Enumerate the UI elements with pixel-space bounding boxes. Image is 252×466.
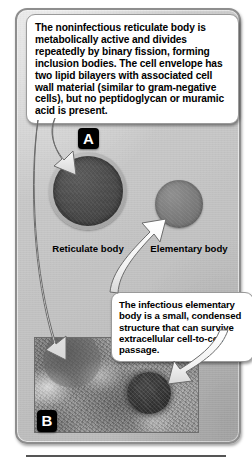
callout-elementary-body: The infectious elementary body is a smal… [111,292,252,362]
panel-tag-a: A [78,128,99,149]
micrograph-elementary-body [127,372,171,414]
elementary-body-label: Elementary body [146,243,232,255]
bottom-divider [26,455,226,457]
elementary-body [155,180,203,228]
reticulate-body-label: Reticulate body [44,243,132,255]
reticulate-body [49,152,127,230]
callout-reticulate-body: The noninfectious reticulate body is met… [26,14,239,124]
figure-root: Reticulate body Elementary body The noni… [0,0,252,466]
reticulate-body-core [53,156,123,226]
panel-tag-b: B [37,410,57,432]
